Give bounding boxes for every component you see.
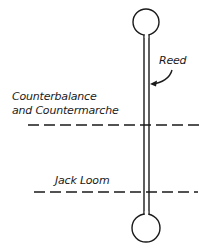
reed-bottom-knob — [132, 214, 160, 242]
reed-position-diagram: Reed Counterbalance and Countermarche Ja… — [0, 0, 211, 248]
counterbalance-label-line2: and Countermarche — [12, 104, 119, 117]
shaft-bottom-join — [145, 211, 148, 216]
shaft-top-join — [145, 32, 148, 38]
reed-label: Reed — [159, 54, 188, 67]
counterbalance-label-line1: Counterbalance — [12, 90, 97, 103]
arrowhead-icon — [150, 81, 157, 87]
jack-loom-label: Jack Loom — [53, 174, 109, 187]
reed-top-knob — [133, 9, 159, 35]
